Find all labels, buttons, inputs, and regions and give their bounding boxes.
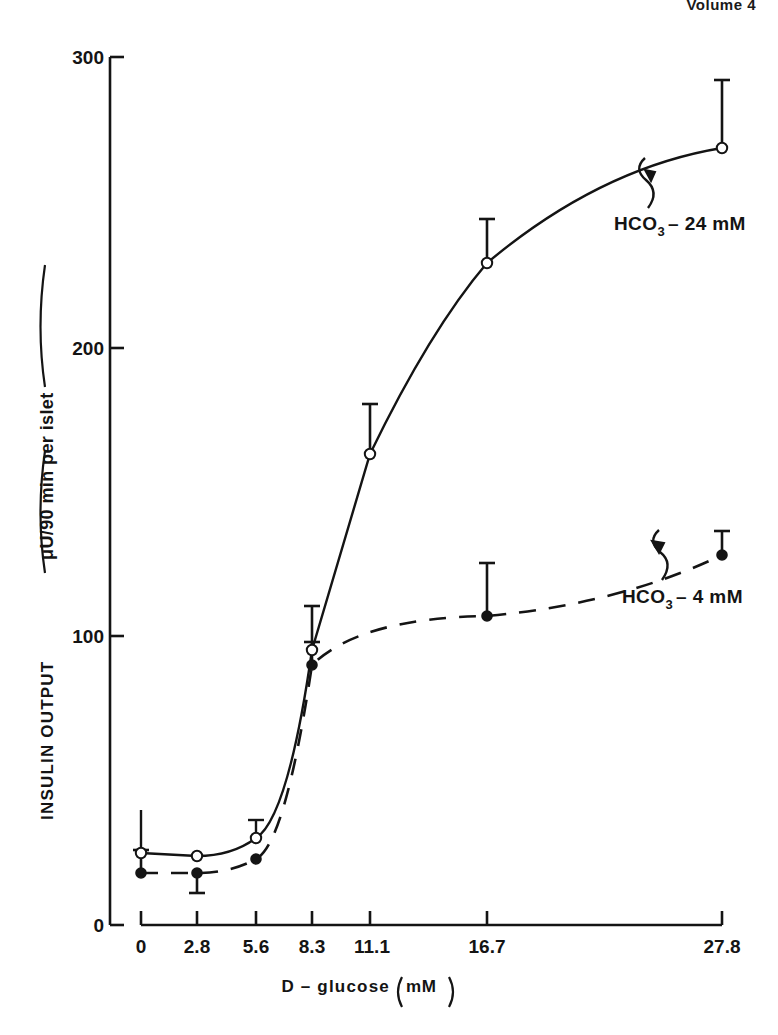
annotation-leader-line-4mm — [653, 530, 667, 580]
data-point — [482, 611, 492, 621]
annotation-hco3-4mm: HCO3– 4 mM — [622, 530, 743, 612]
series-hco3-24mm-markers — [136, 143, 727, 861]
series-label-formula-24mm: HCO — [614, 213, 657, 234]
data-point — [717, 143, 727, 153]
series-label-subscript-24mm: 3 — [657, 224, 665, 239]
series-hco3-24mm — [136, 80, 730, 861]
x-tick-label-11-1: 11.1 — [354, 936, 390, 957]
x-tick-label-2-8: 2.8 — [184, 936, 210, 957]
x-axis-units-paren-close — [449, 977, 453, 1007]
data-point — [136, 848, 146, 858]
figure-root: Volume 4 300 200 100 0 0 2.8 5.6 8 — [0, 0, 778, 1035]
series-label-subscript-4mm: 3 — [665, 597, 673, 612]
y-axis-title-main: INSULIN OUTPUT — [38, 661, 57, 820]
x-tick-label-0: 0 — [136, 936, 147, 957]
data-point — [717, 550, 727, 560]
annotation-hco3-24mm: HCO3– 24 mM — [614, 158, 746, 239]
y-tick-label-300: 300 — [72, 47, 104, 68]
series-hco3-24mm-line — [141, 148, 722, 856]
x-tick-label-5-6: 5.6 — [243, 936, 269, 957]
y-tick-label-100: 100 — [72, 626, 104, 647]
data-point — [482, 258, 492, 268]
data-point — [192, 851, 202, 861]
x-tick-label-16-7: 16.7 — [469, 936, 506, 957]
x-tick-label-8-3: 8.3 — [299, 936, 325, 957]
series-hco3-24mm-errorbars — [141, 80, 730, 853]
y-axis-title: INSULIN OUTPUT μU/90 min per islet — [37, 265, 57, 820]
x-axis-title-units: mM — [406, 977, 436, 996]
y-tick-label-0: 0 — [93, 915, 104, 936]
data-point — [307, 645, 317, 655]
y-axis-units-paren-close — [41, 265, 46, 387]
data-point — [365, 449, 375, 459]
series-label-hco3-24mm: HCO3– 24 mM — [614, 213, 746, 239]
data-point — [251, 854, 261, 864]
y-tick-label-200: 200 — [72, 338, 104, 359]
annotation-arrowhead-4mm — [652, 541, 664, 553]
x-axis-title-main: D – glucose — [281, 977, 390, 996]
x-axis — [141, 911, 722, 925]
x-axis-units-paren-open — [398, 977, 402, 1007]
y-axis — [110, 57, 124, 925]
series-label-hco3-4mm: HCO3– 4 mM — [622, 586, 743, 612]
insulin-output-vs-glucose-chart: 300 200 100 0 0 2.8 5.6 8.3 11.1 16.7 27… — [0, 0, 778, 1035]
data-point — [192, 868, 202, 878]
series-label-charge-conc-4mm: – 4 mM — [676, 586, 743, 607]
data-point — [136, 868, 146, 878]
x-axis-title: D – glucose mM — [281, 977, 453, 1007]
y-axis-title-units: μU/90 min per islet — [37, 392, 57, 560]
data-point — [251, 833, 261, 843]
series-label-charge-conc-24mm: – 24 mM — [668, 213, 746, 234]
series-label-formula-4mm: HCO — [622, 586, 665, 607]
x-tick-label-27-8: 27.8 — [704, 936, 741, 957]
